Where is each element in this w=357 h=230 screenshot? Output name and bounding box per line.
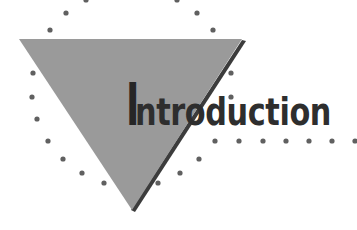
title-rest: ntroduction	[135, 94, 331, 131]
intro-banner: Introduction	[0, 0, 357, 230]
page-title: Introduction	[126, 76, 357, 134]
dotted-line-icon	[212, 138, 357, 143]
